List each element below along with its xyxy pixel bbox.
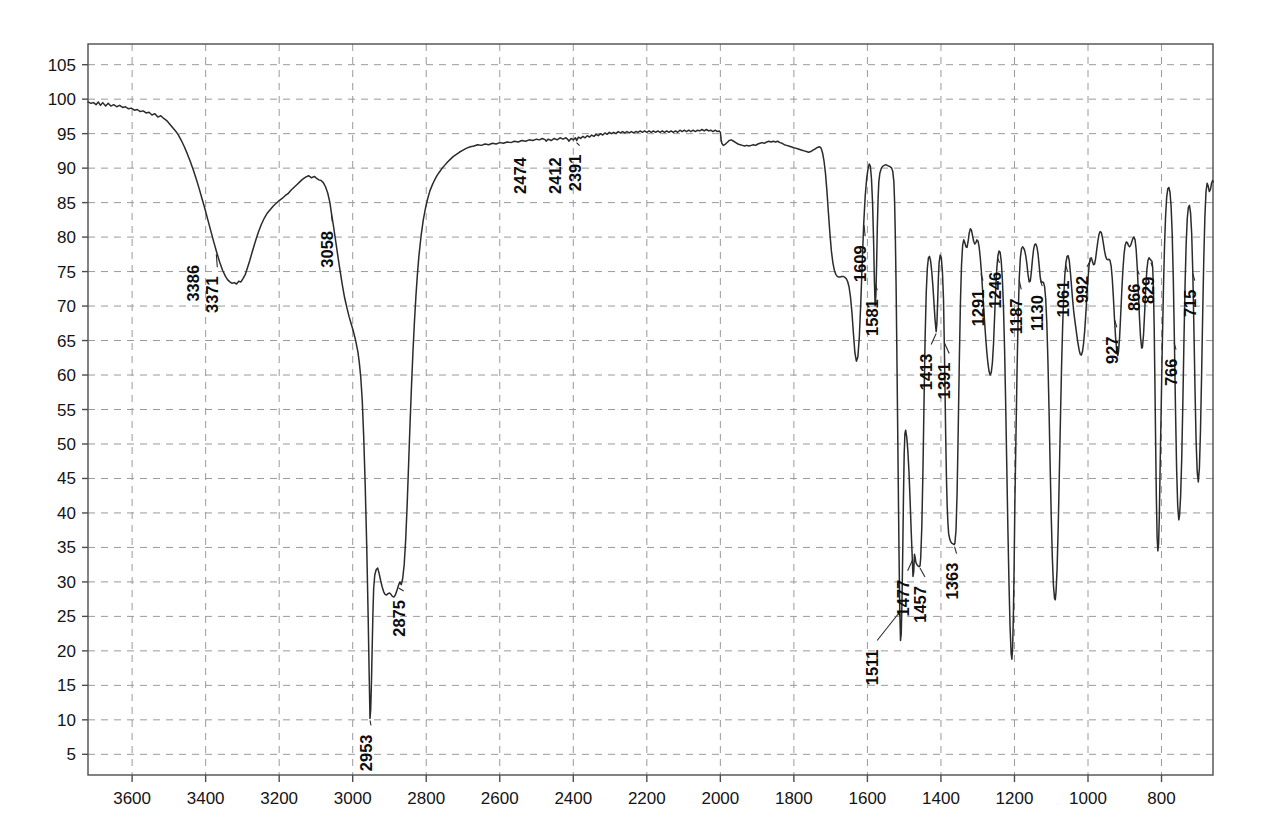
- x-tick-label: 1400: [922, 789, 960, 808]
- peak-label: 1291: [969, 290, 987, 327]
- y-tick-label: 10: [57, 711, 76, 730]
- y-tick-label: 85: [57, 194, 76, 213]
- y-tick-label: 90: [57, 159, 76, 178]
- spectrum-trace-layer: [88, 102, 1213, 719]
- y-tick-label: 65: [57, 332, 76, 351]
- y-tick-label: 105: [48, 56, 76, 75]
- peak-label: 766: [1162, 359, 1180, 387]
- peak-label: 1511: [863, 649, 881, 685]
- x-tick-label: 1200: [996, 789, 1034, 808]
- peak-label: 3058: [318, 231, 336, 268]
- x-tick-label: 2800: [407, 789, 445, 808]
- peak-label: 1061: [1054, 281, 1072, 318]
- peak-label: 3386: [184, 265, 202, 302]
- peak-label: 829: [1139, 277, 1157, 305]
- x-tick-label: 1800: [775, 789, 813, 808]
- peak-leader-line: [864, 225, 865, 236]
- peak-label: 1477: [894, 580, 912, 617]
- peak-label: 992: [1073, 276, 1091, 304]
- peak-label: 2953: [357, 734, 375, 771]
- x-axis-ticks: 3600340032003000280026002400220020001800…: [113, 775, 1176, 808]
- peak-label: 1187: [1007, 298, 1025, 334]
- ir-spectrum-chart: 5101520253035404550556065707580859095100…: [0, 0, 1267, 839]
- peak-label: 2412: [546, 157, 564, 194]
- peak-leader-line: [920, 568, 925, 577]
- y-tick-label: 45: [57, 469, 76, 488]
- peak-leader-line: [931, 334, 936, 345]
- x-tick-label: 2400: [554, 789, 592, 808]
- y-tick-label: 50: [57, 435, 76, 454]
- peak-label: 2875: [390, 600, 408, 637]
- x-tick-label: 2200: [628, 789, 666, 808]
- y-tick-label: 30: [57, 573, 76, 592]
- peak-label: 1413: [917, 354, 935, 391]
- y-tick-label: 80: [57, 228, 76, 247]
- peak-label: 927: [1103, 336, 1121, 364]
- x-tick-label: 1600: [848, 789, 886, 808]
- peak-label: 2474: [511, 156, 529, 194]
- peak-label: 1363: [943, 563, 961, 600]
- spectrum-trace: [88, 102, 1213, 719]
- peak-label: 3371: [203, 276, 221, 313]
- peak-leader-line: [955, 547, 957, 554]
- y-tick-label: 20: [57, 642, 76, 661]
- y-tick-label: 75: [57, 263, 76, 282]
- y-tick-label: 40: [57, 504, 76, 523]
- y-tick-label: 70: [57, 297, 76, 316]
- y-tick-label: 25: [57, 607, 76, 626]
- grid-layer: [88, 44, 1213, 775]
- y-tick-label: 5: [67, 745, 76, 764]
- x-tick-label: 3600: [113, 789, 151, 808]
- x-tick-label: 2000: [701, 789, 739, 808]
- y-tick-label: 100: [48, 90, 76, 109]
- peak-label: 1457: [911, 586, 929, 623]
- peak-leader-line: [370, 720, 371, 725]
- y-tick-label: 60: [57, 366, 76, 385]
- y-axis-ticks: 5101520253035404550556065707580859095100…: [48, 56, 88, 765]
- peak-label: 1609: [851, 245, 869, 282]
- ir-spectrum-page: 5101520253035404550556065707580859095100…: [0, 0, 1267, 839]
- x-tick-label: 3200: [260, 789, 298, 808]
- peak-leader-line: [399, 588, 404, 591]
- peak-label: 715: [1181, 290, 1199, 318]
- peak-label: 1130: [1028, 295, 1046, 331]
- y-tick-label: 15: [57, 676, 76, 695]
- x-tick-label: 3400: [187, 789, 225, 808]
- peak-leader-line: [577, 143, 580, 146]
- peak-label: 1581: [863, 299, 881, 336]
- x-tick-label: 800: [1147, 789, 1175, 808]
- y-tick-label: 55: [57, 401, 76, 420]
- x-tick-label: 2600: [481, 789, 519, 808]
- x-tick-label: 1000: [1069, 789, 1107, 808]
- peak-label: 1246: [986, 272, 1004, 309]
- x-tick-label: 3000: [334, 789, 372, 808]
- peak-label: 2391: [566, 155, 584, 192]
- y-tick-label: 35: [57, 538, 76, 557]
- peak-label: 1391: [935, 363, 953, 400]
- y-tick-label: 95: [57, 125, 76, 144]
